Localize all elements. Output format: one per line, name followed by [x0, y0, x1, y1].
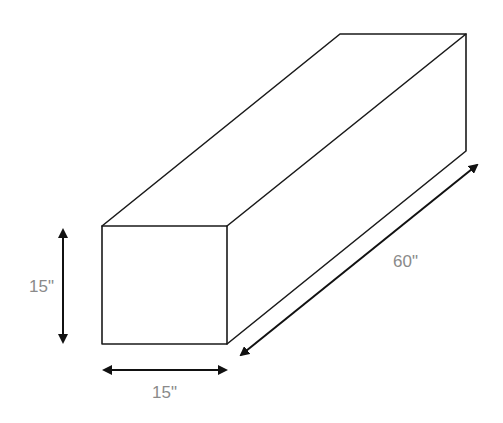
width-label: 15": [152, 383, 177, 402]
prism-diagram: 15" 15" 60": [0, 0, 503, 423]
front-face: [102, 226, 227, 344]
width-dimension: 15": [104, 370, 226, 402]
height-label: 15": [29, 277, 54, 296]
length-dimension: 60": [241, 165, 477, 355]
length-arrow: [241, 165, 477, 355]
height-dimension: 15": [29, 230, 63, 342]
prism: [102, 34, 466, 344]
top-face: [102, 34, 466, 226]
side-face: [227, 34, 466, 344]
length-label: 60": [393, 252, 418, 271]
